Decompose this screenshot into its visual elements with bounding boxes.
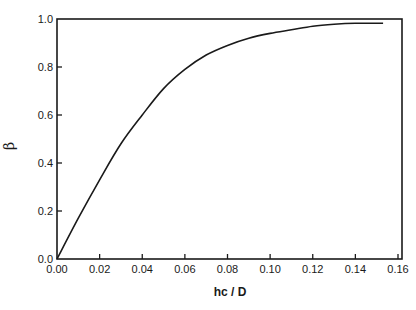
y-axis-label: β [1,142,17,150]
chart: 0.000.020.040.060.080.100.120.140.16 0.0… [0,0,416,310]
y-tick-label: 0.4 [38,157,53,169]
y-tick-label: 0.6 [38,109,53,121]
y-tick-label: 0.0 [38,253,53,265]
x-tick-label: 0.10 [259,263,280,275]
plot-frame [57,19,402,259]
x-tick-label: 0.12 [302,263,323,275]
x-tick-label: 0.16 [387,263,408,275]
x-tick-label: 0.04 [132,263,153,275]
x-tick-label: 0.02 [89,263,110,275]
x-axis-label: hc / D [214,285,247,299]
data-line [57,23,383,259]
x-tick-label: 0.14 [345,263,366,275]
x-tick-label: 0.06 [174,263,195,275]
y-axis-ticks: 0.00.20.40.60.81.0 [38,13,62,265]
y-tick-label: 0.2 [38,205,53,217]
x-axis-ticks: 0.000.020.040.060.080.100.120.140.16 [46,254,408,275]
x-tick-label: 0.08 [217,263,238,275]
y-tick-label: 0.8 [38,61,53,73]
y-tick-label: 1.0 [38,13,53,25]
